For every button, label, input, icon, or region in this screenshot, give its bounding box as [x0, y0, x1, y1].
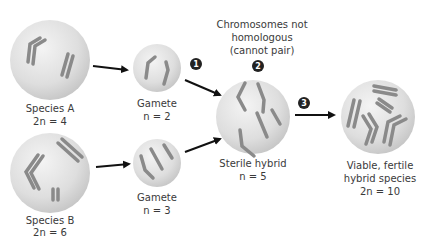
arrow-gamete-b-to-hybrid	[185, 139, 220, 152]
svg-text:3: 3	[301, 99, 307, 108]
fertile-hybrid-label-1: Viable, fertile	[347, 160, 414, 171]
fertile-hybrid-cell	[341, 80, 415, 154]
arrow-a-to-gamete	[93, 66, 127, 70]
annotation-line-2: homologous	[231, 32, 292, 43]
gamete-a-label: Gamete	[137, 98, 177, 109]
step-1-badge: 1	[190, 58, 202, 70]
species-a-cell	[10, 20, 90, 100]
step-2-badge: 2	[252, 60, 264, 72]
gamete-b-cell	[133, 139, 181, 187]
svg-text:2: 2	[255, 62, 261, 71]
species-b-cell	[10, 133, 90, 213]
annotation-line-1: Chromosomes not	[216, 19, 307, 30]
species-b-label: Species B	[26, 215, 75, 226]
fertile-hybrid-label-2: hybrid species	[344, 173, 416, 184]
annotation-line-3: (cannot pair)	[230, 45, 295, 56]
speciation-diagram: Species A 2n = 4 Species B 2n = 6 Gamete…	[0, 0, 429, 236]
step-3-badge: 3	[298, 97, 310, 109]
gamete-b-label: Gamete	[137, 192, 177, 203]
gamete-b-ploidy: n = 3	[143, 205, 170, 216]
species-a-ploidy: 2n = 4	[33, 116, 67, 127]
gamete-a-ploidy: n = 2	[143, 111, 170, 122]
sterile-hybrid-cell	[216, 80, 290, 156]
sterile-hybrid-label: Sterile hybrid	[219, 158, 286, 169]
svg-text:1: 1	[193, 60, 199, 69]
gamete-a-cell	[133, 44, 181, 92]
species-a-label: Species A	[26, 103, 75, 114]
arrow-gamete-a-to-hybrid	[185, 80, 220, 95]
fertile-hybrid-ploidy: 2n = 10	[360, 186, 400, 197]
sterile-hybrid-ploidy: n = 5	[239, 171, 266, 182]
arrow-b-to-gamete	[96, 164, 129, 167]
species-b-ploidy: 2n = 6	[33, 227, 67, 236]
